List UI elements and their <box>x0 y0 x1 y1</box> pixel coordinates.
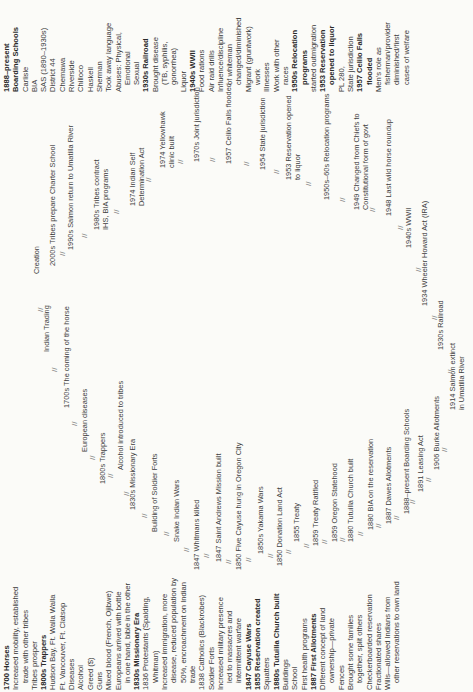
separator-mark: // <box>80 234 89 238</box>
separator-mark: // <box>242 162 251 166</box>
note-heading: 1830s Missionary Era <box>132 578 141 690</box>
ring-event-indian-trading: Indian Trading <box>42 305 51 352</box>
note-heading: 1887 First Allotments <box>309 578 318 690</box>
note-line: Europeans arrived with bottle <box>114 578 123 690</box>
note-line: Carlisle <box>21 17 30 92</box>
note-line: Liquor <box>179 17 188 92</box>
note-line: Air raid drills <box>207 17 216 92</box>
note-line: School <box>290 578 299 690</box>
separator-mark: // <box>88 456 97 460</box>
ring-event-1914-salmon: 1914 Salmon extinctin Umatilla River <box>448 343 466 410</box>
ring-event-1891-leasing: 1891 Leasing Act <box>416 435 425 492</box>
ring-event-text: Building of Soldier Forts <box>150 454 159 532</box>
note-line: of whiteman <box>225 17 234 92</box>
note-line: Chilloco <box>76 17 85 92</box>
note-heading: 1953 Reservation <box>318 17 327 92</box>
note-line: Increased military presence <box>216 578 225 690</box>
note-heading: 1957 Celilo Falls <box>355 17 364 92</box>
separator-mark: // <box>58 252 67 256</box>
note-line: Different concept of land <box>318 578 327 690</box>
ring-event-text: 1880 BIA on the reservation <box>366 439 375 530</box>
note-line: Hudson Bay, Ft. Walla Walla <box>48 578 57 690</box>
note-line: disease, reduced population by <box>169 578 178 690</box>
ring-event-text: Snake Indian Wars <box>172 480 181 542</box>
ring-event-text: 1850 Donation Land Act <box>275 487 284 566</box>
ring-event-text: 1940s WWII <box>404 208 413 248</box>
note-line: Fences <box>337 578 346 690</box>
separator-mark: // <box>392 516 401 520</box>
note-heading: Boarding Schools <box>11 17 20 92</box>
note-line: Tribes prosper <box>30 578 39 690</box>
ring-event-text: to liquor <box>293 95 302 180</box>
ring-event-creation: Creation <box>32 246 41 274</box>
ring-event-1847-whitmans: 1847 Whitmans killed <box>192 500 201 570</box>
separator-mark: // <box>106 474 115 478</box>
ring-event-text: 1970s Joint jurisdiction <box>192 87 201 162</box>
note-line: Men's role as <box>374 17 383 92</box>
ring-event-1887-dawes: 1887 Dawes Allotments <box>384 447 393 524</box>
right-notes-column: 1888–presentBoarding SchoolsCarlisleBIAS… <box>2 17 411 92</box>
note-heading: 1847 Cayuse Wars <box>244 578 253 690</box>
note-line: Migrant (gruntwork) <box>244 17 253 92</box>
ring-event-1855-treaty: 1855 Treaty <box>292 503 301 542</box>
ring-event-text: 1830s Missionary Era <box>128 439 137 510</box>
ring-event-text: 1847 Saint Andrews Mission built <box>214 454 223 562</box>
separator-mark: // <box>50 368 59 372</box>
ring-event-1940s-wwii: 1940s WWII <box>404 208 413 248</box>
note-heading: 1800s Trappers <box>39 578 48 690</box>
ring-event-text: 1948 Last wild horse roundup <box>384 119 393 216</box>
note-heading: 1700 Horses <box>2 578 11 690</box>
separator-mark: // <box>244 558 253 562</box>
ring-event-1880-church: 1880 Tutuilla Church built <box>346 459 355 542</box>
ring-event-2000s-charter: 2000s Tribes prepare Charter School <box>48 145 57 266</box>
separator-mark: // <box>272 170 281 174</box>
note-line: led to massacres and <box>225 578 234 690</box>
note-heading: 1855 Reservation created <box>253 578 262 690</box>
separator-mark: // <box>338 198 347 202</box>
note-line: Mixed blood (French, Ojibwe) <box>104 578 113 690</box>
note-line: together, split others <box>355 578 364 690</box>
note-line: ownership—private <box>327 578 336 690</box>
ring-event-1957-celilo: 1957 Celilo Falls flooded <box>224 83 233 164</box>
separator-mark: // <box>122 492 131 496</box>
note-line: Alcohol <box>76 578 85 690</box>
ring-event-text: Creation <box>32 246 41 274</box>
note-heading: 1930s Railroad <box>141 17 150 92</box>
note-line: Sexual <box>132 17 141 92</box>
note-line: gonorrhea) <box>169 17 178 92</box>
note-line: Diseases <box>67 578 76 690</box>
ring-event-text: 1930s Railroad <box>436 300 445 350</box>
separator-mark: // <box>112 210 121 214</box>
note-line: Sherman <box>95 17 104 92</box>
separator-mark: // <box>182 548 191 552</box>
note-line: trade with other tribes <box>21 578 30 690</box>
ring-event-text: 1850s Yakama Wars <box>256 486 265 554</box>
separator-mark: // <box>368 208 377 212</box>
note-line: cases of welfare <box>402 17 411 92</box>
ring-event-text: 1859 Oregon Statehood <box>330 463 339 542</box>
note-line: Brought some families <box>346 578 355 690</box>
separator-mark: // <box>176 160 185 164</box>
ring-event-1948-horse: 1948 Last wild horse roundup <box>384 119 393 216</box>
note-line: Greed ($) <box>86 578 95 690</box>
ring-event-text: in Umatilla River <box>457 343 466 410</box>
ring-event-text: 1855 Treaty <box>292 503 301 542</box>
note-line: Ft. Vancouver, Ft. Clatsop <box>58 578 67 690</box>
note-line: Took away language <box>104 17 113 92</box>
note-line: BIA <box>30 17 39 92</box>
separator-mark: // <box>356 532 365 536</box>
ring-event-1850-cayuse: 1850 Five Cayuse hung in Oregon City <box>234 443 243 570</box>
note-line: Whitman) <box>151 578 160 690</box>
note-heading: 1880s Tutuilla Church built <box>272 578 281 690</box>
note-line: Riverside <box>67 17 76 92</box>
ring-event-soldier-forts: Building of Soldier Forts <box>150 454 159 532</box>
ring-event-text: 1887 Dawes Allotments <box>384 447 393 524</box>
ring-event-text: 1950s–60s Relocation programs <box>322 94 331 200</box>
note-heading: opened to liquor <box>327 17 336 92</box>
ring-event-text: Constitutional form of govt <box>361 113 370 210</box>
note-line: Work with other <box>272 17 281 92</box>
ring-event-text: European diseases <box>80 389 89 452</box>
ring-event-1970s-joint: 1970s Joint jurisdiction <box>192 87 201 162</box>
ring-event-1859-ratified: 1859 Treaty Ratified <box>311 480 320 546</box>
note-line: Brought disease <box>151 17 160 92</box>
